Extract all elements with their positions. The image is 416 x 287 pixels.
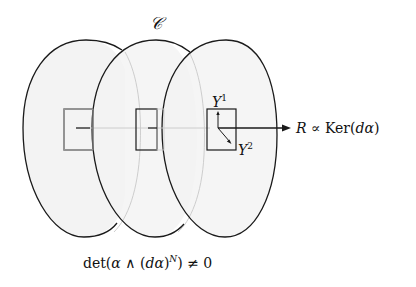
reeb-vector-label: R ∝ Ker(dα): [295, 120, 379, 136]
arrowhead-icon: [282, 125, 291, 132]
contact-condition-label: det(α ∧ (dα)N) ≠ 0: [83, 254, 212, 271]
contact-structure-diagram: 𝒞 Y1 Y2 R ∝ Ker(dα) det(α ∧ (dα)N) ≠ 0: [0, 0, 416, 287]
leaf-ellipses: [23, 40, 277, 237]
foliation-label: 𝒞: [150, 13, 167, 33]
